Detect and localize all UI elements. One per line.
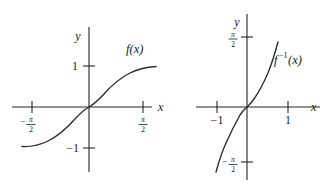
right-ytick2-minus-sign: − — [222, 156, 227, 166]
left-xtick-label-neg-pi-over-2: − π 2 — [20, 115, 36, 134]
left-curve-label-fx: f(x) — [126, 42, 143, 56]
left-ytick-label-one: 1 — [72, 59, 78, 73]
left-xtick-label-pi-over-2: π 2 — [139, 115, 148, 134]
right-xtick-label-neg-one: −1 — [211, 113, 224, 127]
left-x-axis-label: x — [157, 100, 164, 114]
left-xtick-denominator: 2 — [29, 125, 33, 134]
figure-container: y x 1 −1 − π 2 π 2 f(x) — [0, 0, 333, 184]
right-ytick-numerator: π — [231, 30, 235, 39]
left-ytick-label-neg-one: −1 — [66, 141, 79, 155]
right-ytick2-denominator: 2 — [231, 165, 235, 174]
right-ytick-label-pi-over-2: π 2 — [229, 30, 238, 49]
left-y-axis-label: y — [74, 29, 81, 43]
right-y-axis-label: y — [233, 15, 240, 29]
left-xtick2-denominator: 2 — [141, 125, 145, 134]
right-ytick-label-neg-pi-over-2: − π 2 — [222, 155, 238, 174]
right-curve-label-superscript: −1 — [279, 51, 288, 60]
right-xtick-label-one: 1 — [285, 113, 291, 127]
right-curve-label-finverse: f −1 (x) — [274, 51, 302, 67]
left-xtick-minus-sign: − — [20, 116, 25, 126]
right-curve-label-argument: (x) — [288, 53, 302, 67]
left-xtick2-numerator: π — [141, 115, 145, 124]
right-x-axis-label: x — [310, 100, 317, 114]
figure-svg: y x 1 −1 − π 2 π 2 f(x) — [0, 0, 333, 184]
left-panel-sine-plot: y x 1 −1 − π 2 π 2 f(x) — [12, 27, 164, 172]
left-xtick-numerator: π — [29, 115, 33, 124]
right-ytick-denominator: 2 — [231, 40, 235, 49]
right-ytick2-numerator: π — [231, 155, 235, 164]
right-panel-arcsine-plot: y x −1 1 π 2 − π 2 f −1 (x) — [196, 14, 320, 180]
